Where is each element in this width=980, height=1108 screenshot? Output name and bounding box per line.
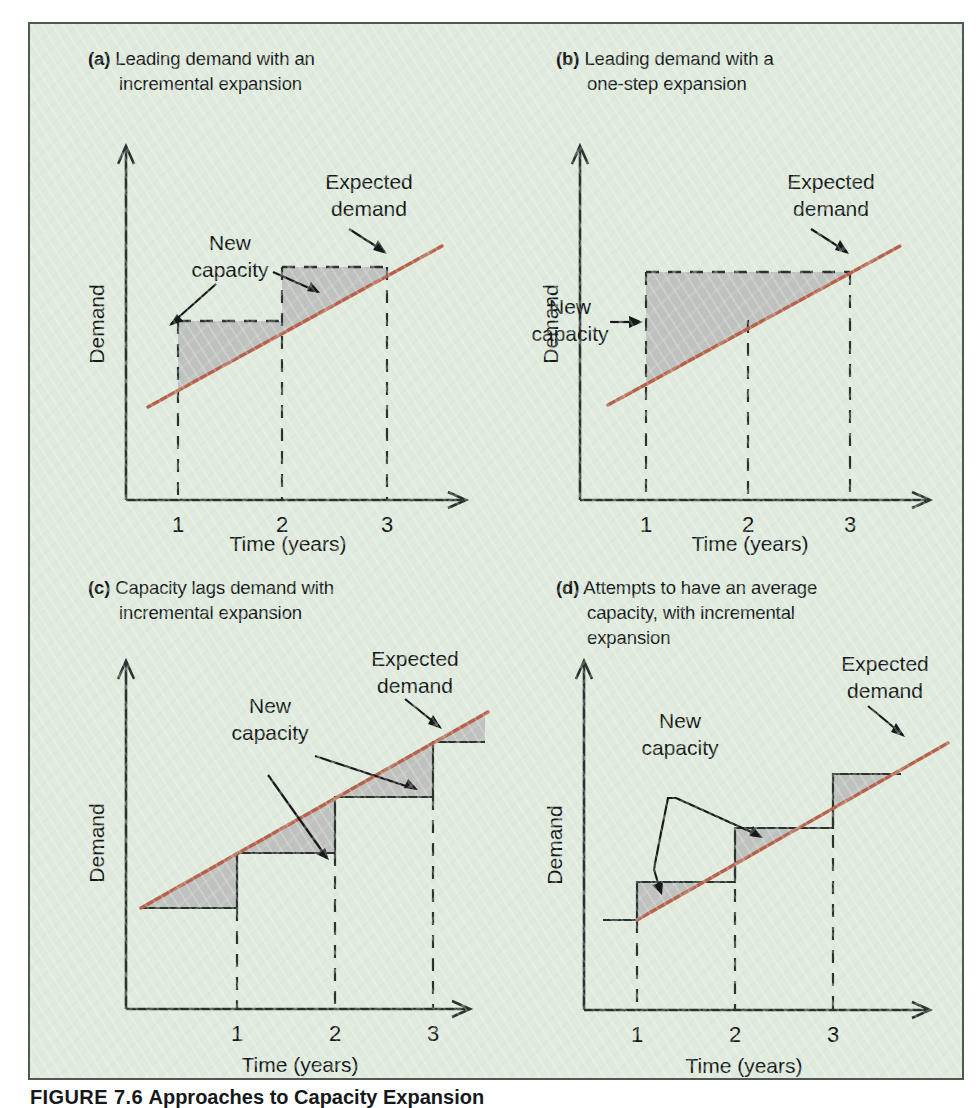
panel-b-arrowhead-expected bbox=[835, 240, 849, 254]
panel-b-xtick-1: 1 bbox=[640, 512, 652, 537]
panel-c-expected-demand-label-2: demand bbox=[377, 674, 453, 697]
panel-b-y-axis-label: Demand bbox=[539, 284, 562, 363]
panel-c-new-capacity-label-2: capacity bbox=[231, 721, 309, 744]
panel-c-x-axis-label: Time (years) bbox=[241, 1053, 358, 1076]
panel-a-plot: Expected demand New capacity 1 2 3 Time … bbox=[30, 24, 498, 553]
panel-a-xtick-3: 3 bbox=[381, 512, 393, 537]
panel-c-arrowhead-expected bbox=[428, 715, 442, 729]
panel-c-xtick-3: 3 bbox=[427, 1021, 439, 1046]
panel-d-plot: Expected demand New capacity 1 2 3 Time … bbox=[498, 553, 964, 1080]
panel-a-xtick-1: 1 bbox=[172, 512, 184, 537]
panel-c-plot: Expected demand New capacity 1 2 3 Time … bbox=[30, 553, 498, 1080]
panel-d: (d) Attempts to have an average capacity… bbox=[498, 553, 964, 1080]
panel-a-expected-demand-label-1: Expected bbox=[325, 170, 413, 193]
panel-b-arrowhead-capacity bbox=[629, 316, 643, 328]
panel-c-y-axis-label: Demand bbox=[85, 803, 108, 882]
panel-d-new-capacity-label-2: capacity bbox=[641, 736, 719, 759]
panel-c-xtick-1: 1 bbox=[231, 1021, 243, 1046]
panel-d-leader-capacity-upper bbox=[676, 798, 760, 836]
figure-caption: FIGURE 7.6 Approaches to Capacity Expans… bbox=[30, 1086, 960, 1108]
panel-d-xtick-2: 2 bbox=[729, 1022, 741, 1047]
panel-b-expected-demand-label-2: demand bbox=[793, 197, 869, 220]
panel-a: (a) Leading demand with an incremental e… bbox=[30, 24, 498, 553]
panel-d-y-axis-label: Demand bbox=[543, 805, 566, 884]
panel-b: (b) Leading demand with a one-step expan… bbox=[498, 24, 964, 553]
panel-c-new-capacity-label-1: New bbox=[249, 694, 292, 717]
panel-a-y-axis-label: Demand bbox=[85, 284, 108, 363]
panel-b-plot: Expected demand New capacity 1 2 3 Time … bbox=[498, 24, 964, 553]
panel-b-expected-demand-label-1: Expected bbox=[787, 170, 875, 193]
panel-d-arrowhead-expected bbox=[891, 723, 905, 737]
panel-a-new-capacity-label-2: capacity bbox=[191, 258, 269, 281]
figure-frame: (a) Leading demand with an incremental e… bbox=[28, 22, 964, 1080]
panel-d-expected-demand-label-1: Expected bbox=[841, 652, 929, 675]
panel-c-xtick-2: 2 bbox=[329, 1021, 341, 1046]
panel-d-xtick-3: 3 bbox=[827, 1022, 839, 1047]
panel-c-demand-line bbox=[141, 712, 488, 908]
panel-a-x-axis-label: Time (years) bbox=[229, 532, 346, 555]
panel-c-expected-demand-label-1: Expected bbox=[371, 647, 459, 670]
panel-b-x-axis-label: Time (years) bbox=[691, 532, 808, 555]
figure-caption-number: FIGURE 7.6 bbox=[30, 1086, 143, 1108]
figure-caption-text: Approaches to Capacity Expansion bbox=[148, 1086, 484, 1108]
panel-a-new-capacity-label-1: New bbox=[209, 231, 252, 254]
panel-d-new-capacity-label-1: New bbox=[659, 709, 702, 732]
panel-d-x-axis-label: Time (years) bbox=[685, 1054, 802, 1077]
panel-c: (c) Capacity lags demand with incrementa… bbox=[30, 553, 498, 1080]
panel-d-xtick-1: 1 bbox=[631, 1022, 643, 1047]
panel-a-expected-demand-label-2: demand bbox=[331, 197, 407, 220]
panel-d-expected-demand-label-2: demand bbox=[847, 679, 923, 702]
panel-b-xtick-3: 3 bbox=[844, 512, 856, 537]
panel-d-demand-line bbox=[637, 743, 948, 920]
panel-a-arrowhead-expected bbox=[373, 240, 387, 254]
panel-d-leader-bracket bbox=[654, 798, 676, 869]
